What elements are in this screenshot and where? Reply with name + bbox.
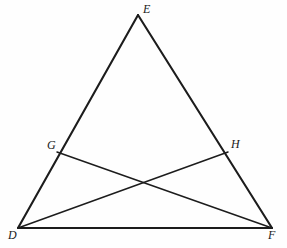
segment-DH (18, 152, 228, 228)
vertex-label-E: E (143, 3, 150, 15)
vertex-label-D: D (8, 229, 17, 241)
segment-GF (57, 152, 272, 228)
segment-DE (18, 15, 138, 228)
segment-EF (138, 15, 272, 228)
geometry-figure: E D F G H (0, 0, 287, 248)
figure-canvas (0, 0, 287, 248)
vertex-label-G: G (47, 139, 56, 151)
vertex-label-H: H (231, 138, 240, 150)
vertex-label-F: F (268, 229, 275, 241)
